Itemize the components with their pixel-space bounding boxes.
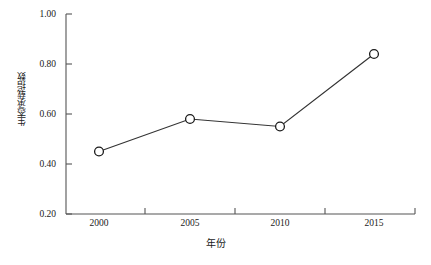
line-chart: 生态承载指数 1.00 0.80 0.60 0.40 0.20 2 bbox=[0, 0, 431, 265]
x-tick-label-2: 2005 bbox=[165, 218, 215, 228]
series-line bbox=[99, 54, 374, 152]
x-tick-label-4: 2015 bbox=[349, 218, 399, 228]
series-markers bbox=[95, 50, 379, 156]
data-point bbox=[370, 50, 379, 59]
x-axis-title: 年份 bbox=[0, 235, 431, 250]
data-point bbox=[186, 115, 195, 124]
y-axis-ticks bbox=[66, 14, 72, 214]
x-axis-ticks bbox=[145, 208, 415, 214]
data-point bbox=[276, 122, 285, 131]
x-tick-label-3: 2010 bbox=[255, 218, 305, 228]
x-tick-label-1: 2000 bbox=[74, 218, 124, 228]
data-point bbox=[95, 147, 104, 156]
